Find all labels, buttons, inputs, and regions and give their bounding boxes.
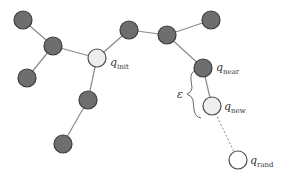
label-q-init: qinit [110, 57, 129, 71]
node-q-rand [229, 151, 247, 169]
tree-node [120, 21, 138, 39]
label-epsilon: ε [177, 89, 183, 100]
tree-node [158, 26, 176, 44]
tree-node [202, 11, 220, 29]
tree-node [79, 91, 97, 109]
tree-node [14, 11, 32, 29]
label-q-rand: qrand [250, 155, 274, 169]
tree-node [44, 37, 62, 55]
label-q-new: qnew [224, 101, 246, 115]
node-q-init [88, 49, 106, 67]
node-q-new [203, 97, 221, 115]
rrt-diagram [0, 0, 282, 177]
tree-node [18, 69, 36, 87]
label-q-near: qnear [216, 62, 239, 76]
tree-node [54, 135, 72, 153]
node-q-near [194, 59, 212, 77]
epsilon-brace [187, 70, 201, 118]
